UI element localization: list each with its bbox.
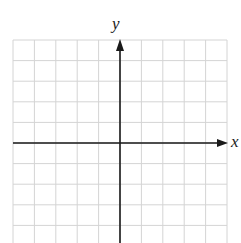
x-axis-label: x: [231, 133, 239, 150]
y-axis-arrow-icon: [116, 39, 124, 51]
coordinate-grid: [0, 0, 241, 243]
y-axis-label: y: [112, 15, 120, 32]
axes: [13, 39, 228, 243]
x-axis-arrow-icon: [217, 139, 228, 147]
